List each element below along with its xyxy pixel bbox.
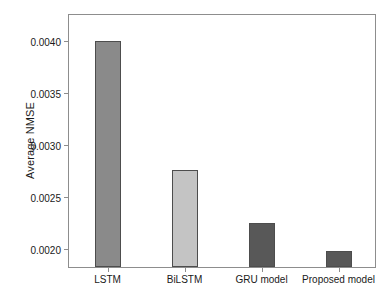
x-tick-label: Proposed model: [302, 274, 375, 285]
y-tick-label: 0.0040: [30, 37, 61, 48]
plot-frame: 0.00200.00250.00300.00350.0040 LSTMBiLST…: [68, 14, 376, 268]
x-tick-label: BiLSTM: [167, 274, 203, 285]
y-tick-mark: 0.0035: [64, 93, 69, 94]
x-tick-mark: [262, 267, 263, 272]
y-tick-label: 0.0035: [30, 89, 61, 100]
bar-proposed-model: [326, 251, 352, 267]
x-tick-label: GRU model: [235, 274, 287, 285]
y-tick-mark: 0.0025: [64, 197, 69, 198]
bar-gru-model: [249, 223, 275, 267]
x-tick-label: LSTM: [94, 274, 121, 285]
bar-lstm: [95, 41, 121, 267]
y-tick-label: 0.0030: [30, 141, 61, 152]
x-tick-mark: [339, 267, 340, 272]
y-tick-mark: 0.0030: [64, 145, 69, 146]
bar-chart: Average NMSE 0.00200.00250.00300.00350.0…: [0, 0, 390, 297]
y-tick-mark: 0.0040: [64, 41, 69, 42]
x-tick-mark: [108, 267, 109, 272]
y-tick-label: 0.0025: [30, 193, 61, 204]
y-tick-mark: 0.0020: [64, 249, 69, 250]
y-tick-label: 0.0020: [30, 245, 61, 256]
bar-bilstm: [172, 170, 198, 267]
x-tick-mark: [185, 267, 186, 272]
plot-area: 0.00200.00250.00300.00350.0040 LSTMBiLST…: [69, 15, 375, 267]
